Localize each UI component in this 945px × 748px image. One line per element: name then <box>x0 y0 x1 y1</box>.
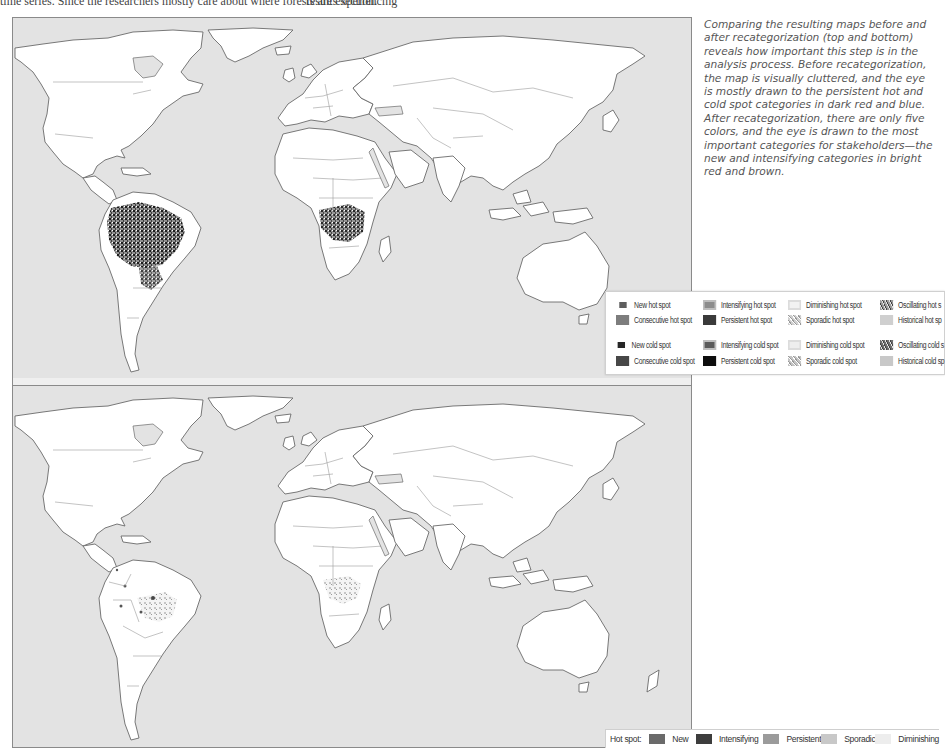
legend-item-new-cold-spot: New cold spot <box>616 339 671 351</box>
swatch-intensifying <box>696 734 712 744</box>
legend-item-oscillating-hot-spot: Oscillating hot s <box>880 299 941 311</box>
legend-item-new-hot-spot: New hot spot <box>616 299 670 311</box>
legend-emerging-hotspot-categories: New hot spot Consecutive hot spot Intens… <box>605 291 945 375</box>
legend-item-persistent-cold-spot: Persistent cold spot <box>703 355 775 367</box>
legend-label: Diminishing cold spot <box>806 340 864 350</box>
legend-label: Intensifying cold spot <box>721 340 778 350</box>
body-text-right: results section. <box>306 0 377 8</box>
swatch-sporadic-cold-spot <box>788 356 801 366</box>
legend-item-persistent-hot-spot: Persistent hot spot <box>703 314 772 326</box>
legend-item-diminishing-hot-spot: Diminishing hot spot <box>788 299 862 311</box>
legend-item-sporadic: Sporadic <box>821 734 875 744</box>
swatch-intensifying-cold-spot <box>703 340 716 350</box>
legend-item-historical-hot-spot: Historical hot sp <box>880 314 942 326</box>
legend-label: Historical cold sp <box>898 356 944 366</box>
legend-label: Sporadic <box>844 734 875 744</box>
swatch-new <box>649 734 665 744</box>
swatch-new-hot-spot <box>619 302 626 308</box>
swatch-oscillating-cold-spot <box>880 340 893 350</box>
legend-label: Persistent cold spot <box>721 356 775 366</box>
swatch-diminishing-hot-spot <box>788 300 801 310</box>
swatch-diminishing-cold-spot <box>788 340 801 350</box>
world-map-before <box>13 18 692 386</box>
overflow-body-text: time series. Since the researchers mostl… <box>0 0 939 8</box>
legend-item-persistent: Persistent <box>763 734 821 744</box>
legend-label: Oscillating cold s <box>898 340 944 350</box>
legend-label: Intensifying <box>719 734 758 744</box>
legend-label: Persistent <box>786 734 821 744</box>
legend-label: New hot spot <box>634 300 670 310</box>
swatch-intensifying-hot-spot <box>703 300 716 310</box>
legend-item-diminishing: Diminishing <box>875 734 939 744</box>
legend-title: Hot spot: <box>610 734 641 744</box>
legend-item-sporadic-hot-spot: Sporadic hot spot <box>788 314 854 326</box>
swatch-historical-cold-spot <box>880 356 893 366</box>
legend-label: Diminishing hot spot <box>806 300 862 310</box>
legend-item-intensifying-hot-spot: Intensifying hot spot <box>703 299 776 311</box>
swatch-historical-hot-spot <box>880 315 893 325</box>
swatch-sporadic-hot-spot <box>788 315 801 325</box>
world-map-after <box>13 386 692 748</box>
legend-recategorized-hotspots: Hot spot: New Intensifying Persistent Sp… <box>605 729 939 748</box>
legend-item-sporadic-cold-spot: Sporadic cold spot <box>788 355 857 367</box>
legend-label: New cold spot <box>632 340 671 350</box>
legend-item-intensifying: Intensifying <box>696 734 763 744</box>
swatch-persistent <box>763 734 779 744</box>
legend-label: Historical hot sp <box>898 315 942 325</box>
swatch-persistent-cold-spot <box>703 356 716 366</box>
legend-label: Sporadic hot spot <box>806 315 854 325</box>
legend-label: Persistent hot spot <box>721 315 772 325</box>
swatch-new-cold-spot <box>618 342 625 348</box>
figure-caption: Comparing the resulting maps before and … <box>704 18 934 179</box>
legend-label: New <box>672 734 688 744</box>
legend-label: Diminishing <box>898 734 939 744</box>
legend-item-intensifying-cold-spot: Intensifying cold spot <box>703 339 778 351</box>
legend-item-diminishing-cold-spot: Diminishing cold spot <box>788 339 864 351</box>
swatch-diminishing <box>875 734 891 744</box>
legend-label: Oscillating hot s <box>898 300 941 310</box>
swatch-consecutive-cold-spot <box>616 356 629 366</box>
legend-label: Consecutive cold spot <box>634 356 695 366</box>
legend-label: Consecutive hot spot <box>634 315 692 325</box>
swatch-consecutive-hot-spot <box>616 315 629 325</box>
legend-item-oscillating-cold-spot: Oscillating cold s <box>880 339 944 351</box>
swatch-persistent-hot-spot <box>703 315 716 325</box>
legend-label: Intensifying hot spot <box>721 300 775 310</box>
swatch-sporadic <box>821 734 837 744</box>
map-after-recategorization <box>12 385 692 748</box>
swatch-oscillating-hot-spot <box>880 300 893 310</box>
legend-item-historical-cold-spot: Historical cold sp <box>880 355 944 367</box>
legend-label: Sporadic cold spot <box>806 356 857 366</box>
legend-item-consecutive-cold-spot: Consecutive cold spot <box>616 355 695 367</box>
legend-item-consecutive-hot-spot: Consecutive hot spot <box>616 314 692 326</box>
legend-item-new: New <box>649 734 696 744</box>
map-before-recategorization <box>12 17 692 386</box>
